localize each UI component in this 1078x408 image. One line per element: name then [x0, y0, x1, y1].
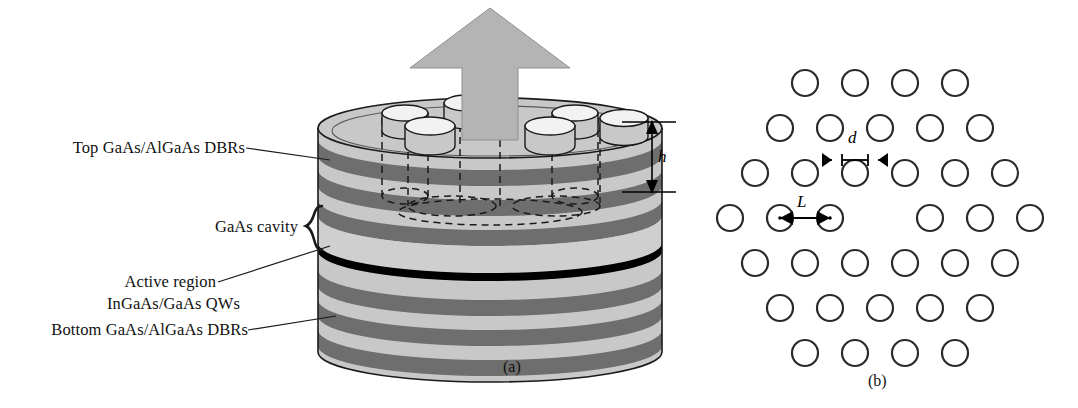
- hole-lattice: [717, 70, 1043, 366]
- panel-b-drawing: [0, 0, 1078, 408]
- hole-diameter-dimension: [822, 153, 888, 167]
- figure-photonic-crystal-vcsel: Top GaAs/AlGaAs DBRs GaAs cavity Active …: [0, 0, 1078, 408]
- lattice-pitch-dimension: [778, 211, 832, 225]
- dimension-label-d: d: [848, 128, 857, 148]
- caption-panel-b: (b): [868, 372, 887, 390]
- dimension-label-L: L: [797, 192, 806, 212]
